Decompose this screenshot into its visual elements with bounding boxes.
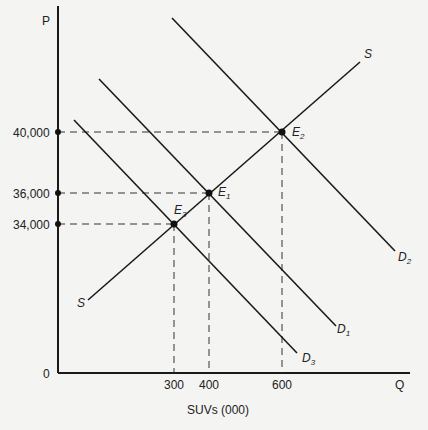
p-axis-label: P <box>42 14 50 28</box>
demand-label-d2: D2 <box>398 250 412 266</box>
origin-label: 0 <box>43 367 50 381</box>
supply-label-top: S <box>364 47 372 61</box>
x-axis-title: SUVs (000) <box>187 403 249 417</box>
supply-demand-chart: P Q 0 40,000 36,000 34,000 300 400 600 S… <box>0 0 428 430</box>
y-tick-34000: 34,000 <box>13 218 50 232</box>
supply-label-bottom: S <box>77 296 85 310</box>
x-tick-600: 600 <box>272 378 292 392</box>
demand-curve-d1 <box>99 79 336 326</box>
equilibrium-e1 <box>206 190 213 197</box>
y-tick-36000: 36,000 <box>13 187 50 201</box>
y-dot-40000 <box>55 129 61 135</box>
equilibrium-label-e1: E1 <box>218 185 230 201</box>
q-axis-label: Q <box>395 378 404 392</box>
guide-lines <box>58 132 282 373</box>
x-tick-400: 400 <box>199 378 219 392</box>
demand-curve-d3 <box>74 120 297 353</box>
y-dot-36000 <box>55 190 61 196</box>
equilibrium-label-e3: E3 <box>174 203 187 219</box>
equilibrium-label-e2: E2 <box>292 125 305 141</box>
demand-label-d3: D3 <box>302 351 316 367</box>
demand-label-d1: D1 <box>337 322 350 338</box>
x-tick-300: 300 <box>164 378 184 392</box>
equilibrium-e2 <box>279 129 286 136</box>
equilibrium-e3 <box>171 221 178 228</box>
supply-curve <box>88 62 360 300</box>
y-dot-34000 <box>55 221 61 227</box>
y-tick-40000: 40,000 <box>13 126 50 140</box>
